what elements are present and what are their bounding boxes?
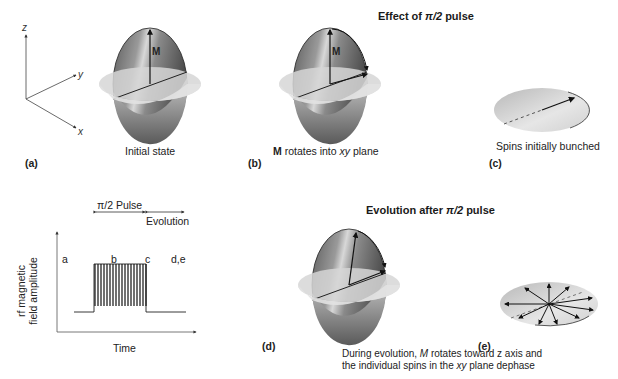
evolution-caption-line1: During evolution, M rotates toward z axi… [342, 348, 542, 360]
sphere-rotation [279, 28, 381, 144]
top-section-title: Effect of π/2 pulse [378, 10, 474, 22]
evolution-caption-line2: the individual spins in the xy plane dep… [342, 360, 542, 372]
sphere-evolution [298, 229, 400, 345]
evolution-caption: During evolution, M rotates toward z axi… [342, 348, 542, 372]
vector-label-m-b: M [332, 46, 340, 57]
pulse-label: π/2 Pulse [97, 199, 142, 211]
evolution-label: Evolution [146, 215, 189, 227]
caption-initial-state: Initial state [125, 145, 175, 157]
panel-tag-c: (c) [489, 157, 502, 169]
panel-tag-b: (b) [248, 157, 261, 169]
vector-label-m-a: M [152, 46, 160, 57]
panel-tag-a: (a) [25, 157, 38, 169]
bottom-section-title: Evolution after π/2 pulse [366, 204, 495, 216]
diagram-canvas: z y x [0, 0, 618, 379]
sphere-initial-state [99, 28, 201, 144]
marker-c: c [145, 253, 150, 265]
panel-tag-d: (d) [262, 340, 275, 352]
marker-a: a [62, 253, 68, 265]
caption-rotates-into-xy: M rotates into xy plane [273, 145, 379, 157]
svg-text:y: y [77, 69, 84, 80]
caption-spins-bunched: Spins initially bunched [496, 140, 600, 152]
svg-text:x: x [77, 126, 84, 137]
time-axis-label: Time [113, 342, 136, 354]
pulse-timing-plot [57, 212, 196, 332]
marker-b: b [111, 253, 117, 265]
rf-oscillation [95, 264, 146, 306]
svg-text:z: z [21, 22, 27, 33]
xy-plane-dephased [500, 282, 598, 326]
marker-de: d,e [171, 253, 186, 265]
coordinate-axes: z y x [21, 22, 84, 137]
amplitude-axis-label: rf magnetic field amplitude [15, 246, 39, 336]
xy-plane-bunched [494, 88, 590, 132]
